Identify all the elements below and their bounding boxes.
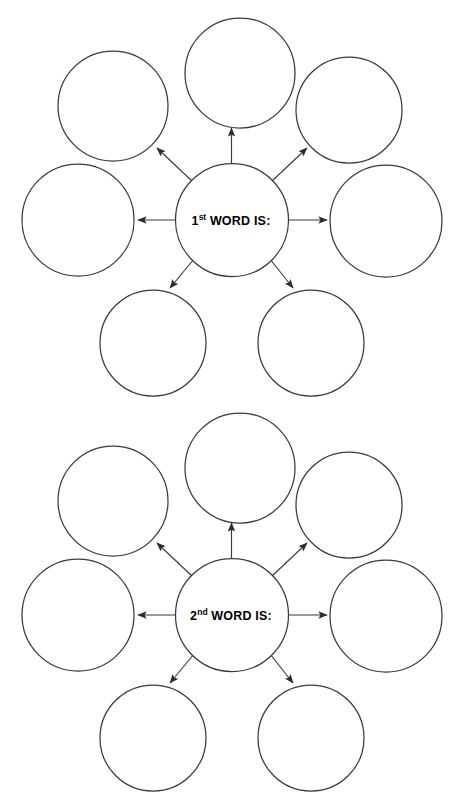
word-web-organizer-2: 2nd WORD IS: [0, 395, 467, 795]
circle-group-2 [22, 413, 442, 791]
branch-circle-left[interactable] [22, 164, 134, 276]
branch-circle-bottom-left[interactable] [100, 290, 206, 396]
circle-group-1 [22, 18, 442, 396]
word-web-organizer-1: 1st WORD IS: [0, 0, 467, 400]
arrow-to-top-left [157, 543, 193, 577]
branch-circle-bottom-left[interactable] [100, 685, 206, 791]
word-web-diagram-2 [0, 395, 467, 795]
center-circle[interactable] [176, 559, 289, 672]
arrow-to-top-right [271, 543, 307, 577]
branch-circle-right[interactable] [330, 560, 442, 672]
branch-circle-left[interactable] [22, 559, 134, 671]
worksheet-page: 1st WORD IS: [0, 0, 467, 800]
arrow-to-bottom-right [270, 654, 293, 683]
arrow-to-top-right [271, 148, 307, 182]
branch-circle-top-left[interactable] [58, 446, 168, 556]
branch-circle-top-left[interactable] [58, 51, 168, 161]
branch-circle-top-right[interactable] [296, 452, 402, 558]
arrow-to-bottom-left [170, 259, 194, 288]
center-circle[interactable] [176, 164, 289, 277]
word-web-diagram-1 [0, 0, 467, 400]
branch-circle-bottom-right[interactable] [258, 290, 364, 396]
branch-circle-top-right[interactable] [296, 57, 402, 163]
arrow-to-bottom-left [170, 654, 194, 683]
branch-circle-top[interactable] [185, 413, 295, 523]
branch-circle-top[interactable] [185, 18, 295, 128]
arrow-to-bottom-right [270, 259, 293, 288]
branch-circle-bottom-right[interactable] [258, 685, 364, 791]
arrow-to-top-left [157, 148, 193, 182]
branch-circle-right[interactable] [330, 165, 442, 277]
